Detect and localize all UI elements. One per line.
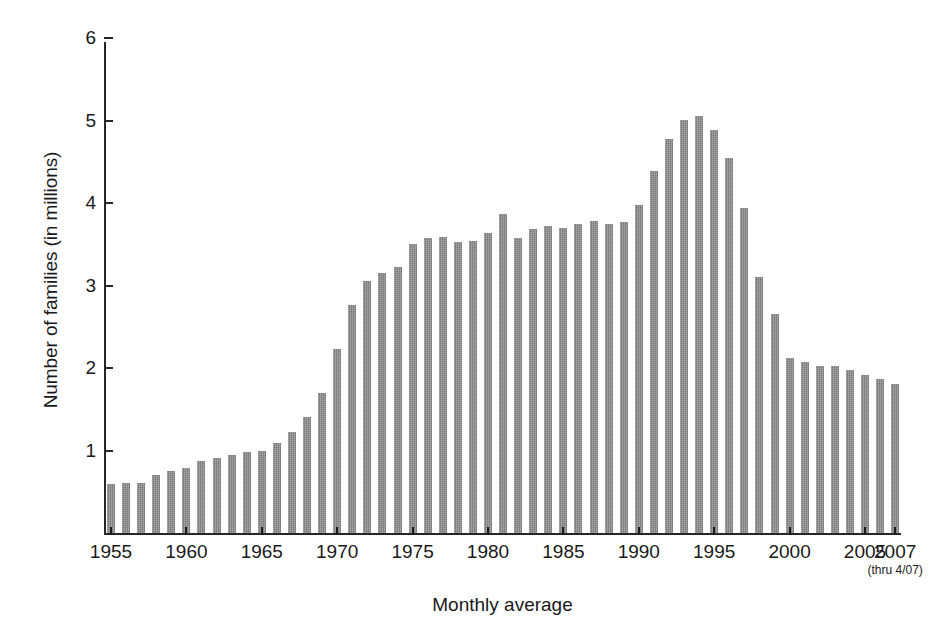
x-axis-tick-label: 1990 <box>604 541 674 563</box>
bar[interactable] <box>786 358 794 533</box>
bar[interactable] <box>394 267 402 533</box>
y-axis-tick <box>104 285 113 287</box>
bar[interactable] <box>288 432 296 533</box>
x-axis-tick <box>894 527 896 535</box>
x-axis-tick-label: 1970 <box>302 541 372 563</box>
bar[interactable] <box>665 139 673 533</box>
x-axis-tick-label: 1955 <box>76 541 146 563</box>
bar[interactable] <box>650 171 658 533</box>
bar[interactable] <box>228 455 236 533</box>
bar[interactable] <box>574 224 582 533</box>
bar[interactable] <box>454 242 462 533</box>
bar[interactable] <box>303 417 311 533</box>
x-axis-tick <box>336 527 338 535</box>
bar[interactable] <box>348 305 356 533</box>
bar[interactable] <box>107 484 115 534</box>
bar[interactable] <box>755 277 763 533</box>
bar[interactable] <box>891 384 899 533</box>
x-axis-tick-label: 1980 <box>453 541 523 563</box>
x-axis-tick <box>185 527 187 535</box>
bar[interactable] <box>378 273 386 533</box>
y-axis-tick-label: 4 <box>62 193 96 212</box>
bar[interactable] <box>605 224 613 533</box>
x-axis-tick-label: 1985 <box>528 541 598 563</box>
x-axis-tick <box>412 527 414 535</box>
x-axis-tick-label: 2000 <box>755 541 825 563</box>
bar[interactable] <box>213 458 221 533</box>
bar[interactable] <box>861 375 869 533</box>
bar[interactable] <box>363 281 371 533</box>
bar[interactable] <box>559 228 567 533</box>
y-axis-tick-label: 5 <box>62 111 96 130</box>
bar[interactable] <box>695 116 703 533</box>
bar[interactable] <box>258 451 266 534</box>
bar[interactable] <box>424 238 432 533</box>
bar[interactable] <box>635 205 643 533</box>
bar[interactable] <box>273 443 281 533</box>
bar[interactable] <box>167 471 175 533</box>
bar[interactable] <box>680 120 688 533</box>
bar[interactable] <box>771 314 779 533</box>
y-axis-tick <box>104 202 113 204</box>
bar[interactable] <box>514 238 522 533</box>
x-axis-tick <box>261 527 263 535</box>
bar-chart-figure: Number of families (in millions) Monthly… <box>0 0 951 634</box>
x-axis-sub-note: (thru 4/07) <box>840 563 950 577</box>
bar[interactable] <box>710 130 718 533</box>
bar[interactable] <box>831 366 839 533</box>
bar[interactable] <box>529 229 537 533</box>
x-axis-tick <box>864 527 866 535</box>
bar[interactable] <box>182 468 190 533</box>
y-axis-tick <box>104 37 113 39</box>
bar[interactable] <box>876 379 884 533</box>
bar[interactable] <box>846 370 854 533</box>
x-axis-tick <box>713 527 715 535</box>
bar[interactable] <box>243 452 251 533</box>
bar[interactable] <box>439 237 447 533</box>
x-axis-tick <box>789 527 791 535</box>
bar[interactable] <box>137 483 145 533</box>
bar[interactable] <box>122 483 130 533</box>
bar[interactable] <box>801 362 809 533</box>
x-axis-tick <box>562 527 564 535</box>
bar[interactable] <box>816 366 824 533</box>
bar[interactable] <box>544 226 552 533</box>
x-axis-tick-label: 1965 <box>227 541 297 563</box>
x-axis-tick-label: 1960 <box>151 541 221 563</box>
x-axis-title: Monthly average <box>104 594 901 616</box>
bar[interactable] <box>590 221 598 533</box>
y-axis-tick <box>104 120 113 122</box>
bar[interactable] <box>469 241 477 533</box>
x-axis-tick-label: 2007 <box>860 541 930 563</box>
bar[interactable] <box>409 244 417 533</box>
bar[interactable] <box>484 233 492 533</box>
y-axis-tick-label: 3 <box>62 276 96 295</box>
x-axis-tick <box>638 527 640 535</box>
x-axis-tick-label: 1995 <box>679 541 749 563</box>
bar[interactable] <box>740 208 748 533</box>
x-axis-tick-label: 1975 <box>378 541 448 563</box>
bar[interactable] <box>725 158 733 533</box>
y-axis-tick <box>104 367 113 369</box>
y-axis-tick <box>104 450 113 452</box>
x-axis-tick <box>487 527 489 535</box>
bar[interactable] <box>197 461 205 533</box>
bar[interactable] <box>318 393 326 533</box>
x-axis-tick <box>110 527 112 535</box>
bar[interactable] <box>499 214 507 533</box>
y-axis-tick-label: 6 <box>62 28 96 47</box>
plot-area <box>0 0 951 634</box>
bar[interactable] <box>620 222 628 533</box>
bar[interactable] <box>152 475 160 533</box>
y-axis-tick-label: 1 <box>62 441 96 460</box>
y-axis-tick-label: 2 <box>62 358 96 377</box>
bar[interactable] <box>333 349 341 533</box>
